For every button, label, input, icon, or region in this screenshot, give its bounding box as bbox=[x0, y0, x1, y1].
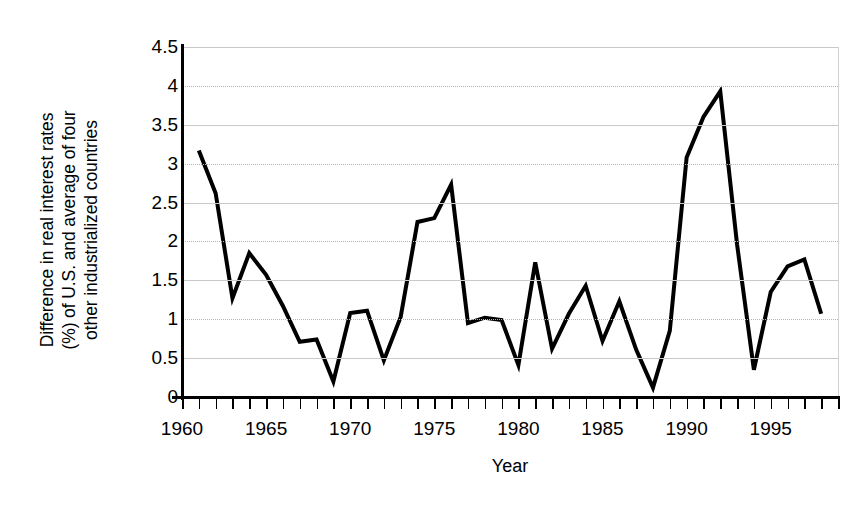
x-tick-mark bbox=[653, 399, 655, 409]
x-tick-mark bbox=[569, 399, 571, 409]
y-tick-label: 2.5 bbox=[132, 193, 178, 212]
x-tick-mark bbox=[468, 399, 470, 409]
x-axis-title: Year bbox=[182, 455, 838, 477]
y-tick-label: 1.5 bbox=[132, 270, 178, 289]
y-axis-title-text: Difference in real interest rates (%) of… bbox=[36, 110, 102, 349]
y-tick-label: 3 bbox=[132, 154, 178, 173]
x-tick-mark bbox=[703, 399, 705, 409]
x-tick-mark bbox=[788, 399, 790, 409]
x-tick-mark bbox=[636, 399, 638, 409]
x-tick-mark bbox=[216, 399, 218, 409]
x-tick-mark bbox=[552, 399, 554, 409]
x-tick-mark bbox=[434, 399, 436, 409]
x-tick-mark bbox=[518, 399, 520, 409]
x-tick-mark bbox=[619, 399, 621, 409]
y-tick-label: 0.5 bbox=[132, 348, 178, 367]
x-tick-mark bbox=[821, 399, 823, 409]
x-tick-mark bbox=[535, 399, 537, 409]
x-tick-label: 1970 bbox=[310, 418, 390, 440]
x-tick-mark bbox=[317, 399, 319, 409]
x-tick-mark bbox=[838, 399, 840, 409]
x-tick-mark bbox=[737, 399, 739, 409]
x-tick-mark bbox=[367, 399, 369, 409]
x-tick-mark bbox=[603, 399, 605, 409]
gridline bbox=[182, 203, 838, 204]
gridline bbox=[182, 164, 838, 166]
x-tick-mark bbox=[199, 399, 201, 409]
x-tick-label: 1980 bbox=[478, 418, 558, 440]
x-tick-label: 1960 bbox=[142, 418, 222, 440]
x-tick-label: 1985 bbox=[563, 418, 643, 440]
gridline bbox=[182, 86, 838, 88]
x-tick-mark bbox=[350, 399, 352, 409]
gridline bbox=[182, 319, 838, 321]
x-tick-label: 1975 bbox=[394, 418, 474, 440]
x-tick-mark bbox=[384, 399, 386, 409]
gridline bbox=[182, 280, 838, 281]
y-axis-line bbox=[181, 44, 184, 400]
gridline bbox=[182, 125, 838, 126]
x-tick-mark bbox=[249, 399, 251, 409]
x-tick-mark bbox=[417, 399, 419, 409]
y-axis-title: Difference in real interest rates (%) of… bbox=[36, 40, 102, 420]
x-tick-mark bbox=[586, 399, 588, 409]
gridline bbox=[182, 358, 838, 359]
y-tick-label: 4 bbox=[132, 76, 178, 95]
x-tick-mark bbox=[687, 399, 689, 409]
x-tick-mark bbox=[283, 399, 285, 409]
x-tick-mark bbox=[182, 399, 184, 409]
plot-right-border bbox=[838, 47, 839, 397]
gridline bbox=[182, 241, 838, 243]
x-tick-label: 1965 bbox=[226, 418, 306, 440]
x-tick-mark bbox=[451, 399, 453, 409]
gridline bbox=[182, 47, 838, 48]
x-tick-mark bbox=[804, 399, 806, 409]
x-tick-mark bbox=[232, 399, 234, 409]
y-tick-label: 3.5 bbox=[132, 115, 178, 134]
x-tick-mark bbox=[401, 399, 403, 409]
x-tick-mark bbox=[670, 399, 672, 409]
x-tick-mark bbox=[485, 399, 487, 409]
x-tick-label: 1995 bbox=[731, 418, 811, 440]
x-tick-mark bbox=[333, 399, 335, 409]
x-tick-mark bbox=[266, 399, 268, 409]
y-tick-label: 2 bbox=[132, 231, 178, 250]
x-axis-line bbox=[172, 396, 840, 399]
x-tick-mark bbox=[502, 399, 504, 409]
y-tick-label: 4.5 bbox=[132, 37, 178, 56]
data-line-series bbox=[182, 47, 838, 397]
x-tick-mark bbox=[720, 399, 722, 409]
x-tick-label: 1990 bbox=[647, 418, 727, 440]
chart-figure: Difference in real interest rates (%) of… bbox=[0, 0, 867, 515]
x-tick-mark bbox=[754, 399, 756, 409]
x-tick-mark bbox=[771, 399, 773, 409]
x-tick-mark bbox=[300, 399, 302, 409]
plot-area bbox=[182, 47, 838, 397]
y-tick-label: 1 bbox=[132, 309, 178, 328]
